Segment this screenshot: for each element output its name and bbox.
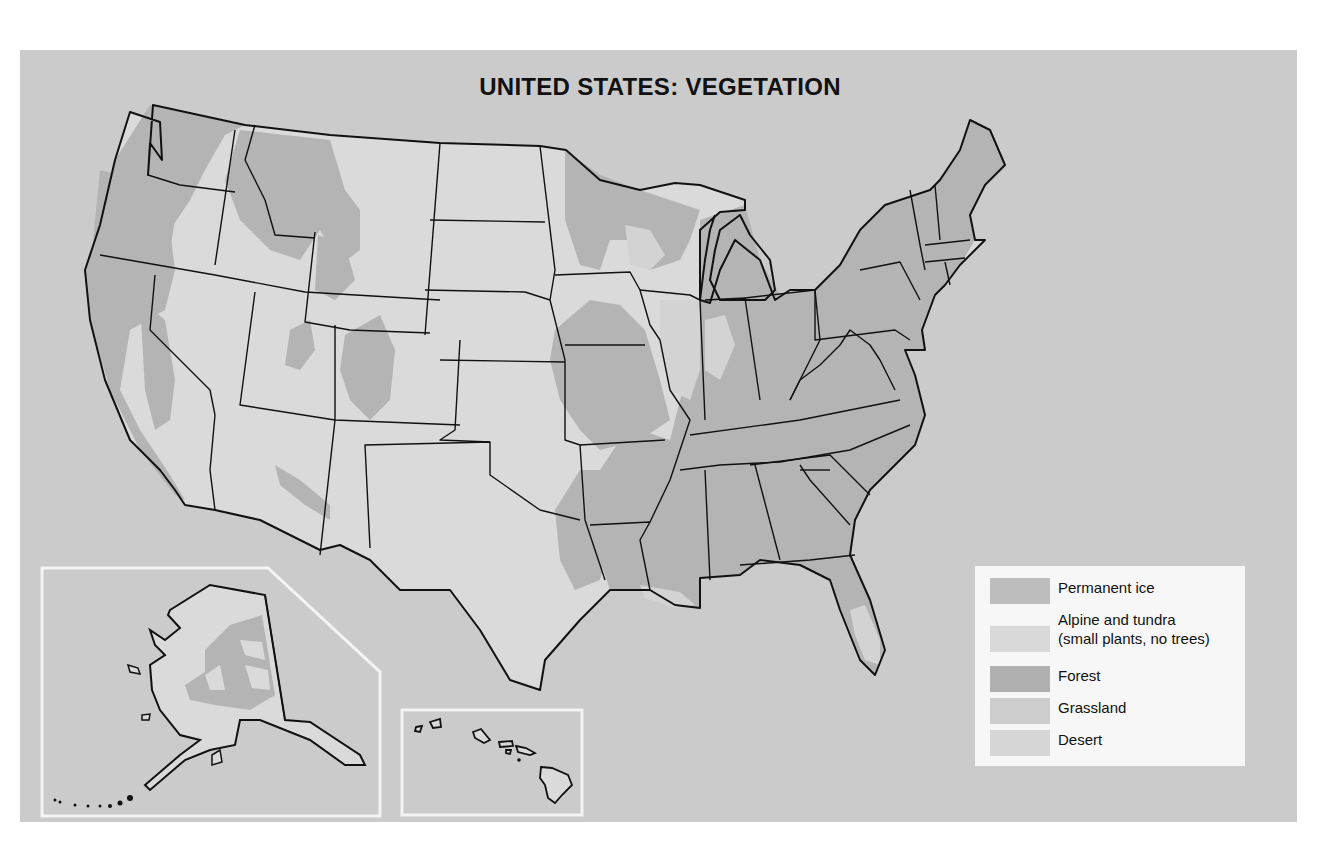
island-kauai: [430, 719, 441, 728]
legend-item-grassland: Grassland: [990, 698, 1126, 724]
alaska-island-st-lawrence: [128, 665, 140, 674]
legend-item-alpine-tundra: Alpine and tundra (small plants, no tree…: [990, 610, 1210, 652]
alaska-island-kodiak: [212, 750, 222, 765]
hawaii-islands: [415, 719, 572, 803]
swatch-alpine-tundra: [990, 626, 1050, 652]
legend-item-desert: Desert: [990, 730, 1102, 756]
island-lanai: [506, 750, 511, 754]
legend-label: Permanent ice: [1058, 578, 1155, 597]
legend-item-permanent-ice: Permanent ice: [990, 578, 1155, 604]
legend-label: Desert: [1058, 730, 1102, 749]
alaska-island-nunivak: [142, 714, 150, 720]
legend-label: Alpine and tundra (small plants, no tree…: [1058, 610, 1210, 648]
island-molokai: [499, 741, 513, 747]
swatch-forest: [990, 666, 1050, 692]
hawaii-inset: [402, 710, 582, 815]
island-niihau: [415, 726, 422, 732]
island-oahu: [473, 729, 490, 743]
aleutian-islands: [54, 795, 134, 808]
legend-item-forest: Forest: [990, 666, 1101, 692]
swatch-grassland: [990, 698, 1050, 724]
alaska-inset: [42, 568, 380, 816]
legend: Permanent ice Alpine and tundra (small p…: [975, 566, 1245, 766]
legend-label: Forest: [1058, 666, 1101, 685]
island-hawaii: [540, 767, 572, 803]
swatch-permanent-ice: [990, 578, 1050, 604]
island-kahoolawe: [517, 758, 521, 762]
swatch-desert: [990, 730, 1050, 756]
legend-label: Grassland: [1058, 698, 1126, 717]
island-maui: [516, 746, 535, 755]
